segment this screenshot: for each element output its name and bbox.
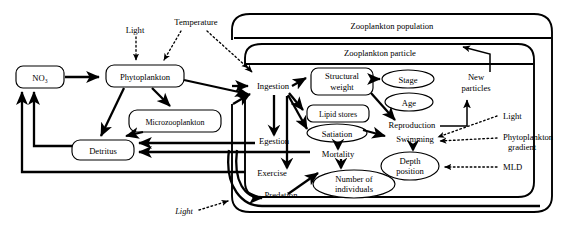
node-label-lipid-stores: Lipid stores [319,110,357,119]
node-satiation: Satiation [307,124,367,142]
node-label-exercise: Exercise [257,168,287,178]
forcing-label-mld: MLD [503,162,522,172]
node-age: Age [385,93,433,111]
node-label-new-particles-line2: particles [461,83,491,93]
node-structural-weight: Structural weight [311,68,373,95]
node-lipid-stores: Lipid stores [307,105,369,122]
node-label-depth-position-line1: Depth [399,156,421,166]
node-label-number-individuals-line2: individuals [335,184,374,194]
node-label-no3: NO₃ [32,73,47,83]
forcing-label-light-right: Light [503,111,522,121]
node-label-new-particles-line1: New [468,72,485,82]
node-label-structural-weight-line2: weight [330,82,354,92]
container-label-zooplankton-particle: Zooplankton particle [344,48,416,58]
node-label-depth-position-line2: position [396,166,424,176]
forcing-label-phyto-gradient-line1: Phytoplankton [503,132,554,142]
forcing-label-temperature: Temperature [174,17,217,27]
node-label-microzooplankton: Microzooplankton [145,118,204,127]
diagram-canvas: Zooplankton population Zooplankton parti… [0,0,571,228]
node-label-phytoplankton: Phytoplankton [120,72,171,82]
forcing-label-phyto-gradient-line2: gradient [508,142,537,152]
node-label-detritus: Detritus [89,146,117,156]
node-label-satiation: Satiation [322,129,353,139]
food-web-diagram: Zooplankton population Zooplankton parti… [0,0,571,228]
node-label-number-individuals-line1: Number of [335,174,373,184]
node-label-swimming: Swimming [396,134,434,144]
node-label-stage: Stage [398,75,417,85]
flow-arrows-ingestion [274,78,307,168]
node-microzooplankton: Microzooplankton [129,110,221,132]
node-label-reproduction: Reproduction [389,120,436,130]
node-no3: NO₃ [16,66,64,88]
container-label-zooplankton-population: Zooplankton population [351,21,435,31]
node-stage: Stage [382,70,434,88]
node-phytoplankton: Phytoplankton [106,65,184,87]
node-label-age: Age [402,98,417,108]
node-label-ingestion: Ingestion [257,81,290,91]
node-label-egestion: Egestion [259,136,290,146]
forcing-label-light-top: Light [126,25,145,35]
forcing-label-light-bottom: Light [174,207,193,216]
node-detritus: Detritus [72,140,134,160]
node-label-structural-weight-line1: Structural [325,71,360,81]
node-number-individuals: Number of individuals [313,170,395,198]
node-depth-position: Depth position [381,152,439,180]
node-label-mortality: Mortality [322,149,355,159]
